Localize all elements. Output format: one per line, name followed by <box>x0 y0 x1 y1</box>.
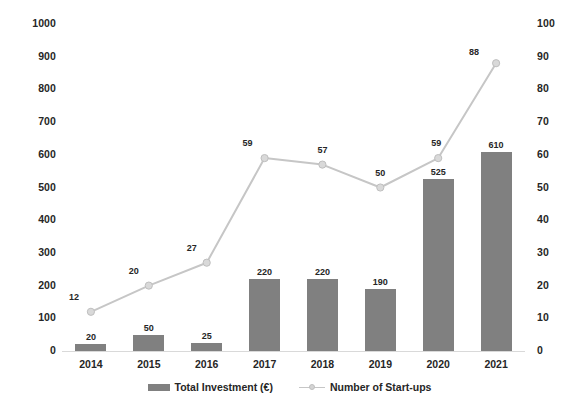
line-value-2015: 20 <box>114 266 154 276</box>
x-axis-line <box>62 351 525 352</box>
x-tick-2019: 2019 <box>351 358 409 370</box>
y-left-tick-800: 800 <box>14 83 56 94</box>
y-left-tick-0: 0 <box>14 345 56 356</box>
line-value-2018: 57 <box>302 145 342 155</box>
y-left-tick-100: 100 <box>14 312 56 323</box>
bar-value-2016: 25 <box>178 331 236 341</box>
line-value-2016: 27 <box>172 243 212 253</box>
line-marker-2021[interactable] <box>493 60 500 67</box>
y-right-tick-50: 50 <box>537 182 577 193</box>
y-right-tick-0: 0 <box>537 345 577 356</box>
y-right-tick-100: 100 <box>537 18 577 29</box>
x-tick-2014: 2014 <box>62 358 120 370</box>
line-marker-2014[interactable] <box>87 308 94 315</box>
x-tick-2015: 2015 <box>120 358 178 370</box>
y-right-tick-40: 40 <box>537 214 577 225</box>
line-value-2017: 59 <box>228 138 268 148</box>
x-tick-2018: 2018 <box>294 358 352 370</box>
line-marker-2020[interactable] <box>435 155 442 162</box>
y-right-tick-20: 20 <box>537 280 577 291</box>
bar-swatch-icon <box>148 384 170 391</box>
line-value-2021: 88 <box>454 47 494 57</box>
legend-label-total-investment: Total Investment (€) <box>175 381 273 393</box>
y-left-tick-1000: 1000 <box>14 18 56 29</box>
y-left-tick-900: 900 <box>14 51 56 62</box>
line-value-2019: 50 <box>360 168 400 178</box>
x-tick-2016: 2016 <box>178 358 236 370</box>
line-marker-2017[interactable] <box>261 155 268 162</box>
line-value-2014: 12 <box>54 292 94 302</box>
bar-value-2021: 610 <box>467 140 525 150</box>
chart-legend: Total Investment (€) Number of Start-ups <box>0 381 579 393</box>
bar-value-2014: 20 <box>62 332 120 342</box>
line-value-2020: 59 <box>416 138 456 148</box>
y-left-tick-700: 700 <box>14 116 56 127</box>
y-right-tick-60: 60 <box>537 149 577 160</box>
y-left-tick-600: 600 <box>14 149 56 160</box>
line-marker-2018[interactable] <box>319 161 326 168</box>
y-right-tick-70: 70 <box>537 116 577 127</box>
bar-2019[interactable] <box>365 289 396 351</box>
legend-item-number-of-startups[interactable]: Number of Start-ups <box>299 381 432 393</box>
line-marker-2016[interactable] <box>203 259 210 266</box>
bar-2014[interactable] <box>75 344 106 351</box>
bar-2017[interactable] <box>249 279 280 351</box>
y-right-tick-80: 80 <box>537 83 577 94</box>
bar-value-2020: 525 <box>409 167 467 177</box>
y-left-tick-200: 200 <box>14 280 56 291</box>
legend-label-number-of-startups: Number of Start-ups <box>330 381 432 393</box>
bar-2015[interactable] <box>133 335 164 351</box>
bar-2016[interactable] <box>191 343 222 351</box>
x-tick-2017: 2017 <box>236 358 294 370</box>
line-marker-swatch-icon <box>299 383 325 392</box>
legend-item-total-investment[interactable]: Total Investment (€) <box>148 381 273 393</box>
bar-value-2019: 190 <box>351 277 409 287</box>
y-left-tick-500: 500 <box>14 182 56 193</box>
y-left-tick-300: 300 <box>14 247 56 258</box>
line-marker-2015[interactable] <box>145 282 152 289</box>
x-tick-2021: 2021 <box>467 358 525 370</box>
y-right-tick-10: 10 <box>537 312 577 323</box>
bar-2021[interactable] <box>481 152 512 351</box>
bar-value-2017: 220 <box>236 267 294 277</box>
bar-value-2018: 220 <box>294 267 352 277</box>
bar-2018[interactable] <box>307 279 338 351</box>
combo-chart: 01002003004005006007008009001000 0102030… <box>0 0 579 411</box>
bar-2020[interactable] <box>423 179 454 351</box>
y-right-tick-30: 30 <box>537 247 577 258</box>
bar-value-2015: 50 <box>120 323 178 333</box>
x-tick-2020: 2020 <box>409 358 467 370</box>
y-right-tick-90: 90 <box>537 51 577 62</box>
line-marker-2019[interactable] <box>377 184 384 191</box>
y-left-tick-400: 400 <box>14 214 56 225</box>
